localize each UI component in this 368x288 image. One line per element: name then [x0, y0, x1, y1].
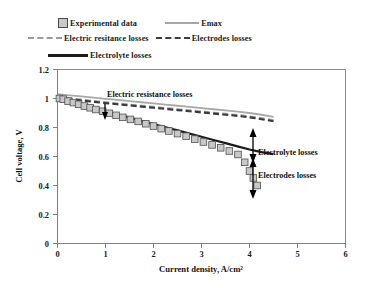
data-point-marker [191, 136, 198, 143]
data-point-marker [174, 130, 181, 137]
y-axis-tick-labels: 0 0.2 0.4 0.6 0.8 1 1.2 [39, 66, 50, 249]
annotation-label: Electric resistance losses [107, 90, 192, 99]
data-point-marker [235, 151, 242, 158]
x-tick-label: 3 [199, 250, 203, 259]
data-point-marker [93, 106, 100, 113]
data-point-marker [135, 118, 142, 125]
data-point-marker [246, 168, 253, 175]
x-axis-tick-labels: 0 1 2 3 4 5 6 [55, 250, 347, 259]
data-point-marker [127, 116, 134, 123]
y-tick-label: 1 [45, 95, 49, 104]
y-tick-label: 0.6 [39, 153, 49, 162]
data-point-marker [183, 133, 190, 140]
x-axis-title: Current density, A/cm² [159, 264, 243, 274]
data-point-marker [217, 145, 224, 152]
y-tick-label: 0 [45, 240, 49, 249]
chart-svg: 0 0.2 0.4 0.6 0.8 1 1.2 0 1 2 [0, 0, 368, 288]
x-tick-label: 2 [151, 250, 155, 259]
data-point-marker [113, 112, 120, 119]
data-point-marker [254, 182, 261, 189]
annotation-label: Electrolyte losses [258, 148, 318, 157]
x-tick-label: 1 [103, 250, 107, 259]
plot-area: 0 0.2 0.4 0.6 0.8 1 1.2 0 1 2 [0, 0, 368, 288]
arrow-head-up-icon [250, 158, 257, 167]
annotation-electrolyte-losses: Electrolyte losses [250, 128, 318, 163]
annotation-label: Electrodes losses [258, 171, 316, 180]
x-tick-label: 5 [295, 250, 299, 259]
arrow-head-up-icon [250, 128, 257, 137]
x-tick-label: 0 [55, 250, 59, 259]
figure-container: Experimental data Emax Electric resitanc… [0, 0, 368, 288]
y-tick-label: 0.8 [39, 124, 49, 133]
data-point-marker [119, 114, 126, 121]
data-point-marker [158, 125, 165, 132]
data-point-marker [150, 123, 157, 130]
x-tick-label: 4 [247, 250, 252, 259]
series-group [56, 94, 273, 189]
y-tick-label: 0.2 [39, 211, 49, 220]
x-tick-label: 6 [343, 250, 347, 259]
arrow-head-down-icon [250, 190, 257, 199]
annotation-electrodes-losses: Electrodes losses [250, 158, 317, 199]
y-tick-label: 0.4 [39, 182, 50, 191]
data-point-marker [241, 159, 248, 166]
y-tick-label: 1.2 [39, 66, 49, 75]
data-point-marker [143, 120, 150, 127]
x-axis-ticks [58, 244, 346, 249]
data-point-marker [209, 142, 216, 149]
data-point-marker [166, 128, 173, 135]
y-axis-title: Cell voltage, V [14, 128, 24, 182]
data-point-marker [200, 139, 207, 146]
data-point-marker [226, 148, 233, 155]
